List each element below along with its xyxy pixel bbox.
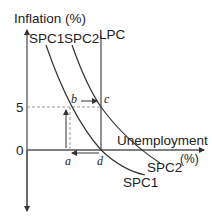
point-c-label: c (104, 92, 110, 106)
x-axis-unit: (%) (180, 152, 199, 166)
y-tick-5: 5 (16, 100, 24, 115)
spc1-curve (46, 45, 145, 175)
y-tick-0: 0 (16, 143, 24, 158)
point-a-label: a (65, 154, 71, 168)
spc2-bottom-label: SPC2 (147, 160, 182, 175)
spc2-top-label: SPC2 (64, 31, 99, 46)
spc1-top-label: SPC1 (29, 31, 64, 46)
lpc-label: LPC (99, 27, 126, 42)
point-b-label: b (71, 92, 77, 106)
phillips-curve-diagram: Inflation (%) SPC1 SPC2 LPC 5 0 Unemploy… (0, 0, 212, 217)
point-d-label: d (97, 154, 104, 168)
x-axis-label: Unemployment (117, 133, 208, 148)
y-axis-label: Inflation (%) (14, 11, 86, 26)
spc1-bottom-label: SPC1 (123, 175, 158, 190)
